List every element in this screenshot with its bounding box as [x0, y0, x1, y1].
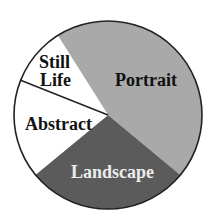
label-still-life-line2: Life — [40, 70, 71, 90]
label-landscape: Landscape — [71, 162, 154, 182]
label-portrait: Portrait — [115, 70, 177, 90]
label-still-life-line1: Still — [39, 52, 70, 72]
pie-chart: Portrait Landscape Abstract Still Life — [0, 0, 221, 218]
label-abstract: Abstract — [25, 114, 92, 134]
